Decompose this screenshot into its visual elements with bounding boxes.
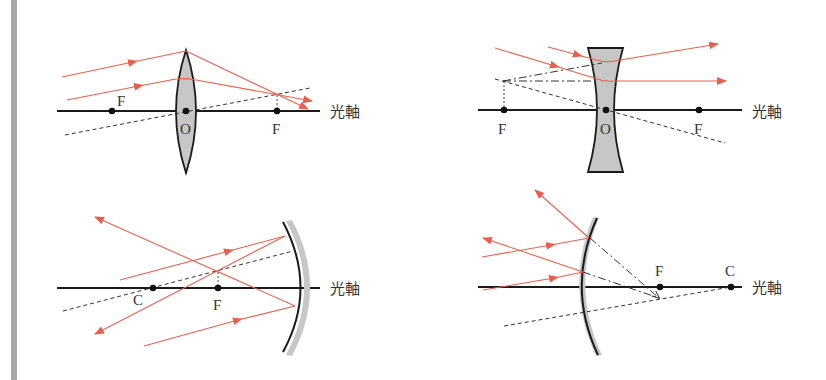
ray-reflected-2 bbox=[483, 238, 583, 272]
ray-incident-1 bbox=[482, 238, 589, 257]
panel-convex-lens: F O F 光軸 bbox=[57, 50, 360, 173]
ray-reflected-2 bbox=[95, 217, 295, 306]
ray-reflected-1 bbox=[95, 236, 285, 334]
ray-reflected-1 bbox=[535, 190, 589, 238]
focus-point-left bbox=[109, 108, 116, 115]
label-focus-right: F bbox=[694, 121, 702, 137]
center-of-curvature-point bbox=[150, 285, 157, 292]
label-center-of-curvature: C bbox=[725, 263, 735, 279]
axis-label: 光軸 bbox=[330, 280, 360, 298]
focus-point-right bbox=[696, 107, 703, 114]
dash-dot-extension-2 bbox=[583, 272, 659, 298]
label-center: O bbox=[180, 121, 191, 137]
dashed-auxiliary-line bbox=[63, 251, 293, 311]
label-center: O bbox=[600, 121, 611, 137]
label-focus-left: F bbox=[117, 93, 125, 109]
axis-label: 光軸 bbox=[752, 103, 782, 121]
center-of-curvature-point bbox=[728, 284, 735, 291]
focus-point bbox=[215, 285, 222, 292]
focus-point-left bbox=[501, 107, 508, 114]
optics-diagram: F O F 光軸 F O F 光軸 bbox=[0, 0, 826, 380]
dash-dot-extension-1 bbox=[590, 238, 659, 298]
lens-center-point bbox=[183, 108, 190, 115]
lens-center-point bbox=[603, 107, 610, 114]
ray-incident-2 bbox=[495, 48, 594, 78]
panel-concave-lens: F O F 光軸 bbox=[478, 44, 782, 172]
axis-label: 光軸 bbox=[752, 279, 782, 297]
axis-label: 光軸 bbox=[330, 103, 360, 121]
focus-point bbox=[657, 284, 664, 291]
label-center-of-curvature: C bbox=[133, 292, 143, 308]
ray-incident-1 bbox=[62, 51, 186, 77]
label-focus-left: F bbox=[498, 121, 506, 137]
dashed-auxiliary-line bbox=[504, 287, 731, 326]
ray-incident-1 bbox=[120, 236, 285, 280]
focus-point-right bbox=[274, 108, 281, 115]
label-focus: F bbox=[655, 263, 663, 279]
panel-concave-mirror: C F 光軸 bbox=[57, 217, 360, 356]
label-focus: F bbox=[213, 297, 221, 313]
panel-convex-mirror: F C 光軸 bbox=[478, 190, 782, 356]
label-focus-right: F bbox=[272, 121, 280, 137]
